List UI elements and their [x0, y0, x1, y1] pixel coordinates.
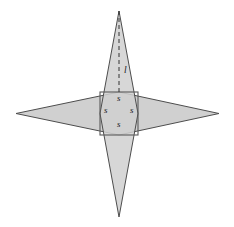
figure-canvas: s s s s l	[0, 0, 234, 227]
spike-height-label: l	[124, 66, 127, 76]
square-side-label-bottom: s	[117, 120, 121, 129]
square-side-label-top: s	[117, 94, 121, 103]
square-side-label-right: s	[130, 106, 134, 115]
square-side-label-left: s	[104, 106, 108, 115]
star-polygon-diagram	[0, 0, 234, 227]
